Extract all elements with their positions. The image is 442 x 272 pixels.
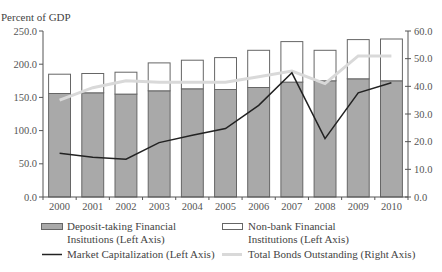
bar-deposit-taking [215, 89, 237, 197]
bar-non-bank [148, 63, 170, 91]
x-axis-tick-label: 2002 [115, 201, 136, 212]
right-axis-tick-label: 40.0 [414, 81, 432, 92]
x-axis-tick-label: 2000 [49, 201, 70, 212]
chart-canvas: Percent of GDP 0.050.0100.0150.0200.0250… [0, 0, 442, 272]
right-axis-tick-label: 10.0 [414, 164, 432, 175]
left-axis-title: Percent of GDP [1, 11, 71, 23]
left-axis-tick-label: 250.0 [13, 26, 37, 37]
bar-deposit-taking [381, 81, 403, 197]
x-axis-tick-label: 2005 [215, 201, 236, 212]
right-axis-tick-label: 0.0 [414, 192, 427, 203]
bar-deposit-taking [181, 89, 203, 197]
legend-swatch-white-bar [223, 224, 243, 230]
bar-non-bank [49, 74, 71, 93]
bar-deposit-taking [347, 79, 369, 197]
bar-non-bank [281, 42, 303, 83]
legend-item-non-bank: Non-bank Financial Institutions (Left Ax… [223, 220, 350, 246]
x-axis-tick-label: 2008 [315, 201, 336, 212]
x-axis-tick-label: 2001 [82, 201, 103, 212]
chart: Percent of GDP 0.050.0100.0150.0200.0250… [0, 0, 442, 272]
left-axis-tick-label: 100.0 [13, 125, 37, 136]
bar-deposit-taking [82, 93, 104, 197]
legend-label-nonbank-line2: Institutions (Left Axis) [248, 233, 349, 246]
x-axis-tick-label: 2004 [182, 201, 204, 212]
legend-item-market-cap: Market Capitalization (Left Axis) [42, 248, 215, 261]
bar-non-bank [248, 50, 270, 87]
left-axis-tick-label: 150.0 [13, 92, 37, 103]
bar-non-bank [215, 58, 237, 90]
bar-deposit-taking [248, 87, 270, 197]
x-axis-tick-label: 2010 [381, 201, 402, 212]
right-axis-tick-label: 60.0 [414, 26, 432, 37]
left-axis-tick-label: 200.0 [13, 59, 37, 70]
legend-item-deposit-taking: Deposit-taking Financial Insitutions (Le… [42, 220, 177, 246]
right-axis-tick-label: 20.0 [414, 136, 432, 147]
bar-deposit-taking [115, 94, 137, 197]
left-axis-tick-label: 0.0 [24, 192, 37, 203]
bar-non-bank [181, 60, 203, 89]
x-axis-tick-label: 2007 [281, 201, 302, 212]
legend-label-bonds: Total Bonds Outstanding (Right Axis) [248, 248, 416, 261]
bar-deposit-taking [281, 82, 303, 197]
x-axis-tick-label: 2009 [348, 201, 369, 212]
legend-item-bonds: Total Bonds Outstanding (Right Axis) [222, 248, 416, 261]
legend: Deposit-taking Financial Insitutions (Le… [42, 220, 416, 261]
bar-non-bank [381, 39, 403, 81]
legend-label-deposit-line1: Deposit-taking Financial [67, 220, 176, 232]
right-axis-tick-label: 50.0 [414, 53, 432, 64]
legend-label-market-cap: Market Capitalization (Left Axis) [67, 248, 215, 261]
legend-swatch-grey-bar [42, 224, 63, 230]
legend-label-nonbank-line1: Non-bank Financial [248, 220, 336, 232]
bar-deposit-taking [49, 93, 71, 197]
x-axis-tick-label: 2006 [248, 201, 269, 212]
x-axis-tick-label: 2003 [149, 201, 170, 212]
bar-deposit-taking [148, 91, 170, 197]
right-axis-tick-label: 30.0 [414, 109, 432, 120]
bar-non-bank [347, 40, 369, 79]
left-axis-tick-label: 50.0 [19, 158, 37, 169]
legend-label-deposit-line2: Insitutions (Left Axis) [67, 233, 165, 246]
